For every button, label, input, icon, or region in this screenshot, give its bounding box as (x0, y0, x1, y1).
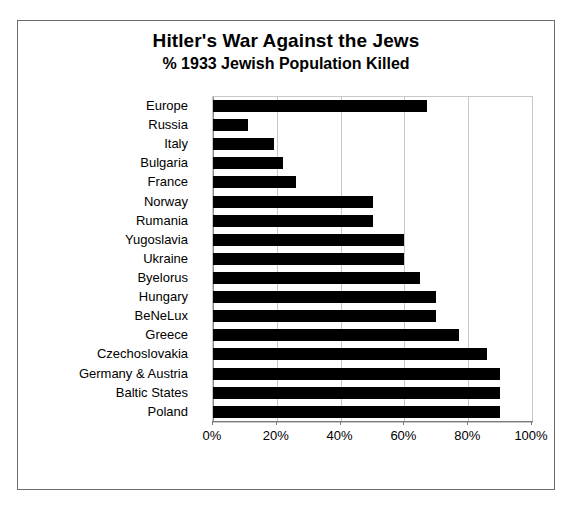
category-label-row: Europe (18, 96, 196, 115)
x-axis-tick-label: 20% (263, 428, 289, 443)
x-axis-tick-label: 80% (454, 428, 480, 443)
bar (213, 272, 420, 284)
category-label: BeNeLux (135, 309, 188, 322)
bar-row (213, 345, 532, 364)
category-label-row: France (18, 172, 196, 191)
chart-figure: Hitler's War Against the Jews % 1933 Jew… (17, 20, 555, 490)
category-label-row: Yugoslavia (18, 230, 196, 249)
x-axis-tick-mark (403, 421, 404, 425)
x-axis-tick-label: 40% (327, 428, 353, 443)
category-label: Yugoslavia (125, 233, 188, 246)
bar-row (213, 403, 532, 422)
bar (213, 387, 500, 399)
bar-row (213, 212, 532, 231)
category-label: Byelorus (137, 271, 188, 284)
category-label-row: Hungary (18, 287, 196, 306)
bar-row (213, 154, 532, 173)
category-label-row: Baltic States (18, 383, 196, 402)
bar-row (213, 326, 532, 345)
category-label-row: Byelorus (18, 268, 196, 287)
category-label-row: Czechoslovakia (18, 344, 196, 363)
bar-row (213, 193, 532, 212)
bar (213, 329, 459, 341)
bar (213, 253, 404, 265)
bar (213, 215, 373, 227)
category-label: Russia (148, 118, 188, 131)
category-label: Bulgaria (140, 156, 188, 169)
category-label: Poland (148, 405, 188, 418)
bar-series (213, 97, 532, 422)
category-label: Ukraine (143, 252, 188, 265)
bar (213, 176, 296, 188)
bar-row (213, 231, 532, 250)
bar (213, 348, 487, 360)
category-label: Hungary (139, 290, 188, 303)
chart-subtitle: % 1933 Jewish Population Killed (18, 53, 554, 75)
category-label-row: Poland (18, 402, 196, 421)
bar (213, 291, 436, 303)
bar-row (213, 307, 532, 326)
bar-row (213, 116, 532, 135)
category-label-row: Italy (18, 134, 196, 153)
category-label: Greece (145, 328, 188, 341)
category-label-row: Germany & Austria (18, 364, 196, 383)
x-axis-tick-mark (531, 421, 532, 425)
x-axis-tick-labels: 0%20%40%60%80%100% (212, 428, 533, 448)
bar-row (213, 250, 532, 269)
bar-row (213, 365, 532, 384)
bar (213, 100, 427, 112)
bar-row (213, 173, 532, 192)
category-label: France (148, 175, 188, 188)
bar-row (213, 97, 532, 116)
category-label-row: Greece (18, 325, 196, 344)
x-axis-tick-mark (212, 421, 213, 425)
x-axis-tick-mark (340, 421, 341, 425)
category-axis-labels: EuropeRussiaItalyBulgariaFranceNorwayRum… (18, 96, 196, 421)
x-axis-line (212, 421, 533, 422)
category-label-row: Bulgaria (18, 153, 196, 172)
category-label-row: Norway (18, 192, 196, 211)
x-axis-tick-label: 60% (390, 428, 416, 443)
category-label: Germany & Austria (79, 367, 188, 380)
category-label: Norway (144, 195, 188, 208)
bar (213, 157, 283, 169)
bar-row (213, 269, 532, 288)
category-label: Italy (164, 137, 188, 150)
category-label: Czechoslovakia (97, 347, 188, 360)
bar (213, 119, 248, 131)
category-label: Rumania (136, 214, 188, 227)
chart-body: EuropeRussiaItalyBulgariaFranceNorwayRum… (18, 75, 556, 475)
category-label: Europe (146, 99, 188, 112)
chart-titles: Hitler's War Against the Jews % 1933 Jew… (18, 29, 554, 75)
category-label-row: BeNeLux (18, 306, 196, 325)
bar (213, 138, 274, 150)
x-axis-tick-label: 100% (514, 428, 547, 443)
gridline (532, 97, 533, 422)
bar (213, 406, 500, 418)
x-axis-tick-mark (467, 421, 468, 425)
x-axis-tick-mark (276, 421, 277, 425)
category-label: Baltic States (116, 386, 188, 399)
bar (213, 234, 404, 246)
bar-row (213, 135, 532, 154)
bar (213, 310, 436, 322)
bar (213, 368, 500, 380)
plot-area (212, 96, 533, 423)
category-label-row: Russia (18, 115, 196, 134)
bar-row (213, 288, 532, 307)
bar-row (213, 384, 532, 403)
category-label-row: Ukraine (18, 249, 196, 268)
x-axis-tick-label: 0% (203, 428, 222, 443)
category-label-row: Rumania (18, 211, 196, 230)
bar (213, 196, 373, 208)
chart-title: Hitler's War Against the Jews (18, 29, 554, 53)
